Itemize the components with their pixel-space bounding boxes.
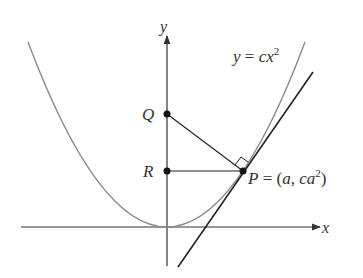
label-R: R: [142, 162, 154, 181]
label-P-coords: P = (a, ca2): [247, 167, 326, 188]
point-Q: [164, 111, 171, 118]
right-angle-marker: [235, 157, 248, 165]
y-axis-label: y: [158, 18, 168, 36]
point-R: [164, 168, 171, 175]
curve-equation-label: y = cx2: [231, 45, 279, 66]
label-Q: Q: [142, 105, 154, 124]
diagram-canvas: x y Q R P = (a, ca2) y = cx2: [0, 0, 363, 278]
point-P: [240, 168, 247, 175]
segment-QP: [167, 114, 243, 171]
x-axis-label: x: [321, 219, 329, 236]
